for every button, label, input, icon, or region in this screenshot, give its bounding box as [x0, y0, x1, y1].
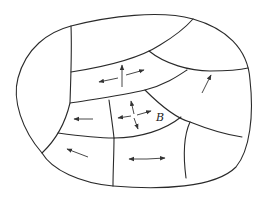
boundary-lower-center-vertical: [113, 138, 114, 186]
diagram-canvas: [0, 0, 265, 200]
arrow-group-center-B: [118, 101, 151, 129]
boundary-lower-right-vertical: [184, 122, 190, 178]
arrow-up-left-icon: [67, 149, 88, 157]
boundary-right-upper: [149, 51, 248, 71]
arrow-up-icon: [131, 101, 134, 114]
boundary-center-vertical: [109, 100, 114, 138]
region-label-B: B: [156, 111, 164, 124]
plate-diagram: B: [0, 0, 265, 200]
arrow-group-lower-middle: [129, 158, 165, 159]
arrow-left-icon: [118, 116, 131, 118]
boundary-upper-band-top: [71, 19, 193, 72]
arrow-up-right-icon: [202, 75, 211, 93]
outer-boundary: [16, 15, 251, 188]
arrow-right-icon: [137, 111, 151, 115]
arrow-down-icon: [134, 118, 138, 129]
arrow-group-upper-band: [99, 65, 144, 87]
arrow-right-icon: [126, 70, 144, 75]
boundary-middle-band: [70, 70, 187, 103]
arrow-right-icon: [147, 158, 165, 159]
arrow-left-icon: [99, 78, 118, 82]
